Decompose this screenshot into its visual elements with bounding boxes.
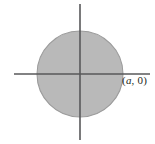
point-label-close-paren: ) — [143, 74, 147, 86]
circle-diagram-figure: (a, 0) — [0, 0, 155, 144]
point-label: (a, 0) — [122, 74, 147, 86]
diagram-canvas — [0, 0, 155, 144]
